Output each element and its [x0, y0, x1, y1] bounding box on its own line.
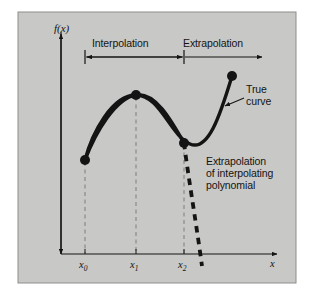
figure-canvas [0, 0, 309, 296]
figure-container: Interpolation Extrapolation Truecurve Ex… [0, 0, 309, 296]
node-marker-x0 [80, 155, 90, 165]
true-curve-label-line2: curve [246, 95, 271, 107]
interpolation-span-label: Interpolation [92, 38, 149, 50]
y-axis-label: f(x) [54, 22, 69, 34]
extrapolation-polynomial-label-line3: polynomial [206, 179, 255, 191]
extrapolation-polynomial-label: Extrapolationof interpolatingpolynomial [206, 156, 273, 191]
x-tick-label-x0-sub: 0 [84, 264, 88, 273]
node-marker-curve-end [227, 71, 237, 81]
node-marker-x2 [179, 138, 189, 148]
x-tick-label-x2-sub: 2 [183, 264, 187, 273]
extrapolation-polynomial-label-line1: Extrapolation [206, 155, 266, 167]
x-tick-label-x2: x2 [178, 259, 186, 273]
x-axis-label: x [270, 258, 275, 269]
extrapolation-span-label: Extrapolation [183, 38, 243, 50]
x-tick-label-x1: x1 [130, 259, 138, 273]
true-curve-label: Truecurve [246, 84, 271, 108]
true-curve-label-line1: True [246, 83, 267, 95]
extrapolation-polynomial-label-line2: of interpolating [206, 167, 273, 179]
node-marker-x1 [131, 90, 141, 100]
panel-background [18, 12, 296, 283]
x-tick-label-x0: x0 [79, 259, 87, 273]
x-tick-label-x1-sub: 1 [135, 264, 139, 273]
